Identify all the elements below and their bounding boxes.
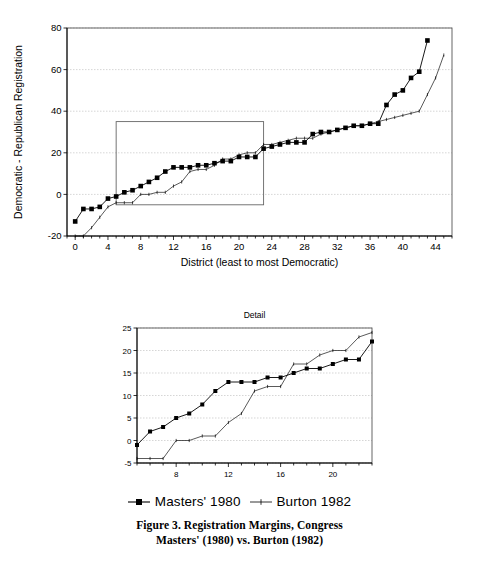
svg-text:20: 20 xyxy=(328,470,337,479)
main-chart-svg: -20020406080048121620242832364044 Distri… xyxy=(0,8,479,284)
svg-text:0: 0 xyxy=(73,241,78,252)
svg-text:8: 8 xyxy=(174,470,179,479)
svg-text:36: 36 xyxy=(365,241,376,252)
detail-tick-labels: -505101520258121620 xyxy=(123,324,338,479)
svg-text:44: 44 xyxy=(430,241,441,252)
inset-highlight-rect xyxy=(116,122,263,205)
svg-text:24: 24 xyxy=(266,241,277,252)
svg-text:15: 15 xyxy=(123,369,132,378)
main-y-axis-title: Democratic - Republican Registration xyxy=(12,45,24,219)
svg-text:-20: -20 xyxy=(48,230,62,241)
svg-text:12: 12 xyxy=(224,470,233,479)
svg-text:4: 4 xyxy=(105,241,110,252)
legend-label-burton: Burton 1982 xyxy=(277,494,352,509)
main-x-axis-title: District (least to most Democratic) xyxy=(181,256,339,268)
main-tick-labels: -20020406080048121620242832364044 xyxy=(48,22,441,252)
svg-text:80: 80 xyxy=(51,22,62,33)
chart-legend: Masters' 1980 Burton 1982 xyxy=(0,494,479,516)
legend-item-burton: Burton 1982 xyxy=(250,494,352,509)
detail-chart: Detail -505101520258121620 xyxy=(0,306,479,488)
svg-text:8: 8 xyxy=(138,241,143,252)
svg-text:28: 28 xyxy=(299,241,310,252)
svg-text:0: 0 xyxy=(127,437,132,446)
detail-axis-ticks xyxy=(134,328,373,467)
legend-marker-thin-line-icon xyxy=(250,497,272,507)
svg-text:12: 12 xyxy=(168,241,179,252)
svg-text:25: 25 xyxy=(123,324,132,333)
legend-item-masters: Masters' 1980 xyxy=(128,494,241,509)
detail-chart-title: Detail xyxy=(244,310,266,320)
figure-caption: Figure 3. Registration Margins, Congress… xyxy=(0,518,479,548)
svg-text:0: 0 xyxy=(56,189,61,200)
detail-gridlines xyxy=(137,328,372,463)
svg-text:20: 20 xyxy=(123,347,132,356)
main-axis-ticks xyxy=(64,28,453,240)
svg-text:20: 20 xyxy=(51,147,62,158)
caption-line-1: Figure 3. Registration Margins, Congress xyxy=(0,518,479,533)
svg-text:32: 32 xyxy=(332,241,343,252)
svg-text:20: 20 xyxy=(234,241,245,252)
detail-chart-svg: Detail -505101520258121620 xyxy=(0,306,479,488)
legend-label-masters: Masters' 1980 xyxy=(155,494,241,509)
svg-text:16: 16 xyxy=(201,241,212,252)
figure-container: -20020406080048121620242832364044 Distri… xyxy=(0,0,479,564)
caption-line-2: Masters' (1980) vs. Burton (1982) xyxy=(0,533,479,548)
main-series-group xyxy=(73,38,444,237)
svg-text:5: 5 xyxy=(127,414,132,423)
legend-marker-filled-square-icon xyxy=(128,497,150,507)
svg-text:40: 40 xyxy=(398,241,409,252)
svg-text:60: 60 xyxy=(51,64,62,75)
svg-text:10: 10 xyxy=(123,392,132,401)
svg-text:-5: -5 xyxy=(124,459,132,468)
svg-text:40: 40 xyxy=(51,105,62,116)
svg-text:16: 16 xyxy=(276,470,285,479)
main-chart: -20020406080048121620242832364044 Distri… xyxy=(0,8,479,284)
